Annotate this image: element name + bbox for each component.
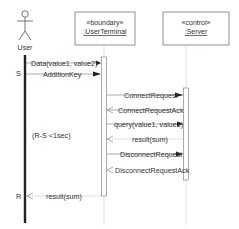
marker-end: R bbox=[16, 192, 21, 201]
message-data: Data(value1, value2) bbox=[26, 59, 101, 68]
participant-server: «control» :Server bbox=[163, 12, 229, 45]
svg-text:result(sum): result(sum) bbox=[46, 192, 82, 201]
message-connectrequest: ConnectRequest bbox=[107, 91, 183, 100]
message-disconnectrequest: DisconnectRequest bbox=[107, 150, 183, 159]
svg-text:ConnectRequestAck: ConnectRequestAck bbox=[118, 106, 184, 115]
participant-name-server: :Server bbox=[185, 28, 208, 35]
message-connectrequestack: ConnectRequestAck bbox=[107, 106, 184, 115]
timing-constraint: (R-S <1sec) bbox=[32, 131, 71, 140]
svg-text:AdditionKey: AdditionKey bbox=[43, 70, 82, 79]
stereotype-control: «control» bbox=[182, 19, 211, 26]
message-result-server: result(sum) bbox=[107, 135, 183, 144]
svg-text:Data(value1, value2): Data(value1, value2) bbox=[31, 59, 97, 68]
message-result-user: result(sum) bbox=[27, 192, 102, 201]
participant-userterminal: «boundary» :UserTerminal bbox=[75, 12, 135, 45]
message-additionkey: AdditionKey bbox=[26, 70, 101, 79]
message-query: query(value1, value2) bbox=[107, 120, 183, 129]
svg-text:query(value1, value2): query(value1, value2) bbox=[114, 120, 183, 129]
message-disconnectrequestack: DisconnectRequestAck bbox=[107, 166, 190, 175]
user-actor-icon bbox=[17, 11, 33, 40]
stereotype-boundary: «boundary» bbox=[87, 19, 124, 27]
sequence-diagram: User «boundary» :UserTerminal «control» … bbox=[0, 0, 239, 229]
svg-text:result(sum): result(sum) bbox=[132, 135, 168, 144]
userterminal-activation bbox=[102, 57, 107, 196]
svg-text:ConnectRequest: ConnectRequest bbox=[124, 91, 178, 100]
marker-start: S bbox=[16, 69, 21, 78]
svg-text:DisconnectRequestAck: DisconnectRequestAck bbox=[115, 166, 190, 175]
participant-name-userterminal: :UserTerminal bbox=[83, 28, 127, 35]
svg-text:DisconnectRequest: DisconnectRequest bbox=[120, 150, 182, 159]
actor-label: User bbox=[18, 44, 33, 51]
